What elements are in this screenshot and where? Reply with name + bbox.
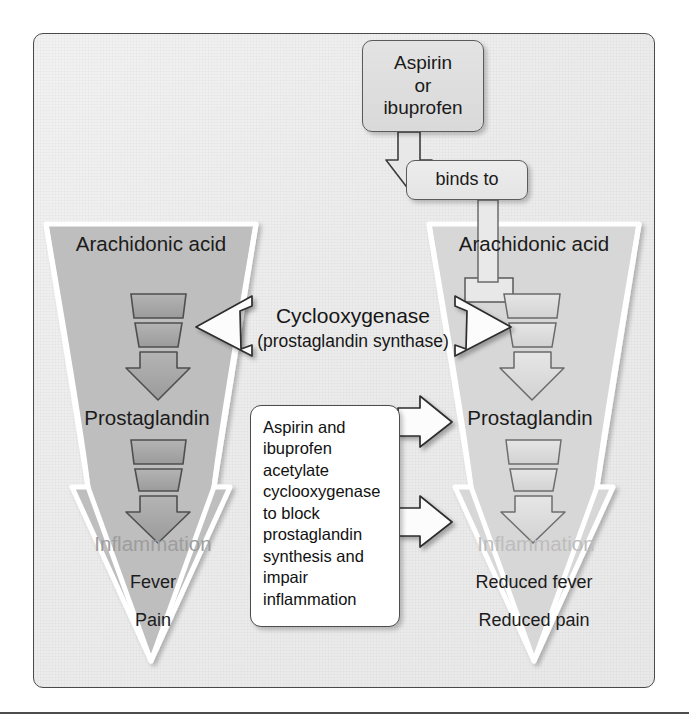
enzyme-alias: (prostaglandin synthase) bbox=[248, 331, 458, 353]
left-prostaglandin-label: Prostaglandin bbox=[42, 406, 252, 430]
drug-box-line-3: ibuprofen bbox=[383, 97, 462, 119]
left-arachidonic-acid-label: Arachidonic acid bbox=[46, 232, 256, 256]
drug-box-line-2: or bbox=[383, 75, 462, 97]
binds-to-box: binds to bbox=[406, 160, 528, 200]
figure-canvas: Aspirin or ibuprofen binds to Cyclooxyge… bbox=[0, 0, 689, 727]
right-effect-reduced-fever: Reduced fever bbox=[429, 572, 639, 593]
right-arachidonic-acid-label: Arachidonic acid bbox=[429, 232, 639, 256]
right-prostaglandin-label: Prostaglandin bbox=[425, 406, 635, 430]
right-effect-reduced-pain: Reduced pain bbox=[429, 610, 639, 631]
right-inflammation-label: Inflammation bbox=[431, 532, 641, 556]
enzyme-label: Cyclooxygenase (prostaglandin synthase) bbox=[248, 303, 458, 353]
left-effect-fever: Fever bbox=[58, 572, 248, 593]
left-effect-pain: Pain bbox=[58, 610, 248, 631]
left-inflammation-label: Inflammation bbox=[48, 532, 258, 556]
mechanism-text: Aspirin and ibuprofen acetylate cyclooxy… bbox=[263, 418, 380, 608]
page-bottom-rule bbox=[0, 712, 689, 714]
enzyme-name: Cyclooxygenase bbox=[276, 304, 430, 327]
binds-to-label: binds to bbox=[435, 169, 498, 190]
drug-box-line-1: Aspirin bbox=[383, 52, 462, 74]
mechanism-callout-box: Aspirin and ibuprofen acetylate cyclooxy… bbox=[250, 405, 400, 627]
drug-box: Aspirin or ibuprofen bbox=[362, 40, 484, 132]
